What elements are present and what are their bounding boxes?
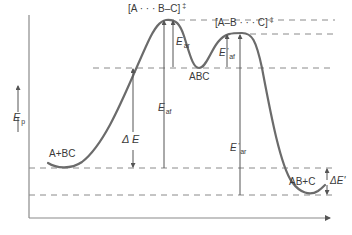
y-axis-label-main: E: [13, 111, 20, 123]
e-ar-prime-sub: ar: [240, 148, 246, 155]
delta-e-prime-label: ΔE': [330, 176, 345, 186]
e-af-prime-label: E'af: [219, 48, 235, 58]
e-af-label: Eaf: [158, 103, 172, 113]
ts1-label: [A · · · B–C]‡: [128, 4, 186, 14]
e-af-main: E: [158, 102, 165, 113]
e-ar-prime-label: E'ar: [230, 143, 246, 153]
ts2-dagger: ‡: [270, 16, 274, 23]
reactants-label: A+BC: [49, 149, 75, 159]
products-label: AB+C: [289, 177, 315, 187]
ts2-label: [A–B · · · C]‡: [215, 18, 274, 28]
e-ar-label: Ear: [176, 37, 190, 47]
y-axis-label-sub: p: [21, 118, 25, 125]
e-ar-main: E: [176, 36, 183, 47]
ts2-text: [A–B · · · C]: [215, 17, 268, 28]
energy-diagram: Ep [A · · · B–C]‡ [A–B · · · C]‡ ABC A+B…: [0, 0, 352, 235]
e-ar-sub: ar: [184, 42, 190, 49]
y-axis-label: Ep: [13, 112, 25, 123]
e-ar-prime-mark: ': [238, 141, 240, 150]
intermediate-label: ABC: [189, 72, 210, 82]
e-af-prime-mark: ': [227, 46, 229, 55]
ts1-dagger: ‡: [182, 2, 186, 9]
e-af-prime-sub: af: [229, 53, 235, 60]
delta-e-label: Δ E: [122, 134, 139, 145]
ts1-text: [A · · · B–C]: [128, 3, 180, 14]
e-ar-prime-main: E: [230, 142, 237, 153]
e-af-sub: af: [166, 108, 172, 115]
e-af-prime-main: E: [219, 47, 226, 58]
